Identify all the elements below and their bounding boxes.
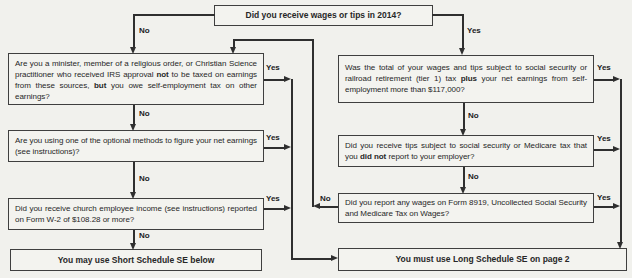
label-r2-yes: Yes bbox=[597, 134, 611, 143]
label-r1-yes: Yes bbox=[597, 63, 611, 72]
connector-r3-yes bbox=[594, 206, 614, 208]
left-q1-bold-not: not bbox=[156, 70, 168, 79]
arrowhead-middle-spine bbox=[331, 255, 338, 261]
right-q2-seg2: report to your employer? bbox=[386, 152, 474, 161]
arrowhead-r2-yes bbox=[613, 146, 620, 152]
label-top-yes: Yes bbox=[467, 26, 481, 35]
connector-right-spine bbox=[620, 79, 622, 242]
label-top-no: No bbox=[139, 26, 150, 35]
label-l2-no: No bbox=[139, 174, 150, 183]
connector-r2-r3 bbox=[463, 167, 465, 187]
short-schedule-result-box: You may use Short Schedule SE below bbox=[10, 249, 262, 271]
left-question-2-box: Are you using one of the optional method… bbox=[8, 130, 264, 162]
connector-top-yes-horizontal bbox=[432, 14, 463, 16]
right-question-1-box: Was the total of your wages and tips sub… bbox=[338, 55, 594, 103]
label-r2-no: No bbox=[468, 172, 479, 181]
connector-top-yes-vertical bbox=[462, 14, 464, 49]
arrowhead-l1-l2 bbox=[130, 124, 136, 131]
arrowhead-r3-no bbox=[313, 203, 320, 209]
label-l2-yes: Yes bbox=[266, 133, 280, 142]
connector-r3-no-horizontal bbox=[318, 206, 338, 208]
label-r3-no: No bbox=[320, 194, 331, 203]
left-q2-text: Are you using one of the optional method… bbox=[15, 136, 257, 156]
left-question-3-box: Did you receive church employee income (… bbox=[8, 198, 264, 230]
arrowhead-r2-r3 bbox=[460, 187, 466, 194]
arrowhead-l1-yes bbox=[284, 76, 291, 82]
connector-l1-l2 bbox=[133, 105, 135, 124]
connector-middle-spine bbox=[291, 79, 293, 259]
connector-top-no-horizontal bbox=[133, 14, 215, 16]
arrowhead-l3-yes bbox=[284, 205, 291, 211]
top-question-box: Did you receive wages or tips in 2014? bbox=[214, 5, 433, 26]
arrowhead-r1-r2 bbox=[460, 129, 466, 136]
long-schedule-result-box: You must use Long Schedule SE on page 2 bbox=[338, 248, 627, 271]
connector-loop-top-horizontal bbox=[233, 39, 313, 41]
connector-top-no-vertical bbox=[133, 14, 135, 47]
label-l1-no: No bbox=[139, 109, 150, 118]
label-l1-yes: Yes bbox=[266, 63, 280, 72]
connector-l3-yes bbox=[264, 208, 285, 210]
label-l3-no: No bbox=[139, 231, 150, 240]
arrowhead-l2-l3 bbox=[130, 192, 136, 199]
top-question-text: Did you receive wages or tips in 2014? bbox=[246, 10, 402, 20]
connector-l1-yes bbox=[264, 79, 285, 81]
left-q3-text: Did you receive church employee income (… bbox=[15, 204, 257, 224]
arrowhead-l3-l4 bbox=[130, 243, 136, 250]
long-schedule-result-text: You must use Long Schedule SE on page 2 bbox=[395, 254, 569, 264]
arrowhead-top-yes bbox=[459, 48, 465, 55]
connector-l2-yes bbox=[264, 147, 285, 149]
arrowhead-top-no bbox=[130, 47, 136, 54]
arrowhead-r1-yes bbox=[613, 76, 620, 82]
left-question-1-box: Are you a minister, member of a religiou… bbox=[8, 53, 264, 105]
right-question-3-box: Did you report any wages on Form 8919, U… bbox=[338, 193, 594, 223]
short-schedule-result-text: You may use Short Schedule SE below bbox=[58, 255, 215, 265]
left-q1-bold-but: but bbox=[94, 81, 106, 90]
arrowhead-right-spine bbox=[617, 242, 623, 249]
connector-l3-l4 bbox=[133, 230, 135, 243]
right-q2-bold-did-not: did not bbox=[360, 152, 386, 161]
arrowhead-l2-yes bbox=[284, 144, 291, 150]
connector-middle-spine-elbow bbox=[291, 258, 331, 260]
connector-r1-r2 bbox=[463, 103, 465, 129]
right-q1-bold-plus: plus bbox=[461, 74, 477, 83]
connector-r1-yes bbox=[594, 79, 614, 81]
connector-r2-yes bbox=[594, 149, 614, 151]
label-r3-yes: Yes bbox=[597, 193, 611, 202]
schedule-se-flowchart: Did you receive wages or tips in 2014? A… bbox=[0, 0, 632, 278]
connector-loop-vertical bbox=[312, 39, 314, 207]
label-r1-no: No bbox=[468, 111, 479, 120]
connector-l2-l3 bbox=[133, 162, 135, 192]
right-question-2-box: Did you receive tips subject to social s… bbox=[338, 135, 594, 167]
arrowhead-loop-into-l1 bbox=[230, 47, 236, 54]
label-l3-yes: Yes bbox=[266, 194, 280, 203]
arrowhead-r3-yes bbox=[613, 203, 620, 209]
right-q3-text: Did you report any wages on Form 8919, U… bbox=[345, 198, 587, 218]
